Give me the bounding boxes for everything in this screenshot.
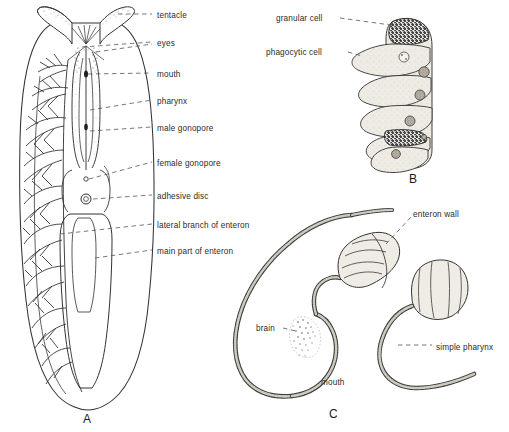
label-enteron-wall: enteron wall (413, 210, 459, 219)
panel-a (20, 7, 154, 410)
label-tentacle: tentacle (157, 11, 187, 20)
panel-letter-a: A (83, 412, 91, 426)
label-lateral-branch-of-enteron: lateral branch of enteron (157, 221, 250, 230)
label-adhesive-disc: adhesive disc (157, 192, 209, 201)
label-male-gonopore: male gonopore (157, 124, 214, 133)
label-mouth: mouth (157, 70, 181, 79)
label-granular-cell: granular cell (276, 14, 323, 23)
female-gonopore-marker (84, 177, 88, 181)
label-mouth-c: mouth (321, 378, 345, 387)
label-phagocytic-cell: phagocytic cell (266, 48, 322, 57)
label-eyes: eyes (157, 39, 175, 48)
granular-cell-top (389, 18, 429, 44)
enteron-wall-band (235, 215, 352, 396)
brain-mass (292, 319, 315, 357)
mouth-marker (84, 70, 88, 77)
enteron-wall-sac (338, 232, 400, 287)
male-gonopore-marker (84, 124, 88, 130)
label-female-gonopore: female gonopore (157, 159, 221, 168)
granular-cell-lower (384, 130, 426, 146)
label-brain: brain (256, 324, 275, 333)
enteron-lumen (72, 218, 96, 312)
panel-c (235, 210, 474, 396)
label-main-part-of-enteron: main part of enteron (157, 247, 233, 256)
label-pharynx: pharynx (157, 97, 187, 106)
label-simple-pharynx: simple pharynx (436, 343, 493, 352)
panel-b (340, 18, 432, 173)
panel-letter-b: B (409, 172, 417, 186)
panel-letter-c: C (329, 407, 338, 421)
